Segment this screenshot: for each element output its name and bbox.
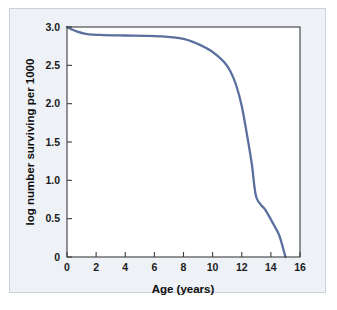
- y-axis-tick-labels: 00.51.01.52.02.53.0: [45, 21, 60, 263]
- y-tick-label: 1.5: [45, 136, 60, 148]
- x-tick-label: 0: [64, 261, 70, 273]
- survivorship-chart: 0246810121416 00.51.01.52.02.53.0 Age (y…: [0, 0, 337, 310]
- figure-root: 0246810121416 00.51.01.52.02.53.0 Age (y…: [0, 0, 337, 310]
- x-axis-title: Age (years): [152, 283, 215, 295]
- y-tick-label: 2.5: [45, 59, 60, 71]
- x-tick-label: 4: [122, 261, 128, 273]
- x-tick-label: 16: [294, 261, 306, 273]
- plot-area-background: [67, 27, 300, 257]
- x-tick-label: 8: [181, 261, 187, 273]
- y-tick-label: 2.0: [45, 97, 60, 109]
- y-tick-label: 0.5: [45, 212, 60, 224]
- x-tick-label: 14: [265, 261, 277, 273]
- y-tick-label: 1.0: [45, 174, 60, 186]
- y-tick-label: 3.0: [45, 21, 60, 33]
- x-tick-label: 2: [93, 261, 99, 273]
- y-tick-label: 0: [54, 251, 60, 263]
- x-tick-label: 12: [236, 261, 248, 273]
- y-axis-title: log number surviving per 1000: [24, 59, 36, 226]
- x-tick-label: 6: [151, 261, 157, 273]
- x-axis-tick-labels: 0246810121416: [64, 261, 306, 273]
- x-tick-label: 10: [207, 261, 219, 273]
